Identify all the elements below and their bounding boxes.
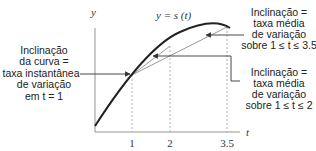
y-axis-label: y: [90, 6, 96, 18]
annotation-line: da curva =: [19, 55, 68, 67]
annotation-line: de variação: [17, 78, 71, 90]
x-axis-label: t: [246, 126, 250, 138]
annotation-line: em t = 1: [25, 90, 63, 102]
tick-label-3-5: 3.5: [220, 137, 234, 149]
tick-label-2: 2: [167, 137, 173, 149]
curve-label: y = s (t): [155, 9, 192, 22]
rate-of-change-diagram: y t 1 2 3.5 y = s (t) Inclinação da curv…: [0, 0, 316, 151]
annotation-line: sobre 1 ≤ t ≤ 2: [246, 99, 313, 111]
secant-1-to-3-5: [132, 27, 227, 75]
curve-s-of-t: [95, 23, 230, 126]
annotation-line: sobre 1 ≤ t ≤ 3.5: [241, 39, 316, 51]
annotation-instantaneous: Inclinação da curva = taxa instantânea d…: [2, 44, 79, 102]
annotation-average-long: Inclinação = taxa média de variação sobr…: [241, 6, 316, 51]
secant-1-to-2: [132, 46, 170, 75]
tick-label-1: 1: [129, 137, 135, 149]
annotation-average-short: Inclinação = taxa média de variação sobr…: [246, 66, 313, 111]
